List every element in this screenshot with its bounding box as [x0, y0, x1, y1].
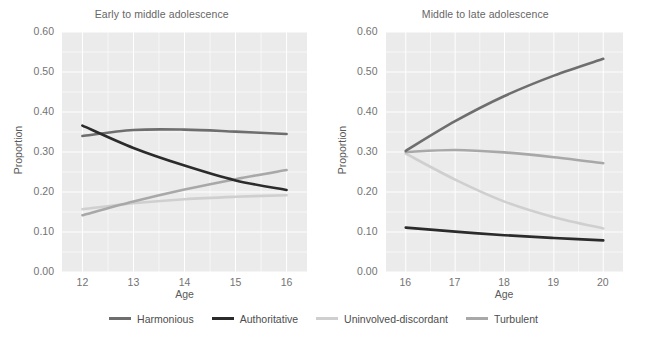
x-axis-label-left: Age: [62, 288, 307, 300]
panel-title-left: Early to middle adolescence: [0, 8, 324, 20]
legend-item-uninvolved-discordant[interactable]: Uninvolved-discordant: [316, 313, 448, 325]
legend-swatch-harmonious: [109, 317, 131, 320]
y-tick-label: 0.30: [0, 145, 54, 157]
legend-item-turbulent[interactable]: Turbulent: [466, 313, 538, 325]
y-tick-label: 0.50: [0, 65, 54, 77]
x-axis-label-right: Age: [386, 288, 623, 300]
x-tick-label: 14: [165, 276, 205, 288]
y-tick-label: 0.00: [0, 265, 54, 277]
y-tick-label: 0.00: [324, 265, 378, 277]
chart-legend: HarmoniousAuthoritativeUninvolved-discor…: [0, 300, 647, 337]
y-tick-label: 0.10: [324, 225, 378, 237]
y-tick-label: 0.20: [0, 185, 54, 197]
y-tick-label: 0.20: [324, 185, 378, 197]
x-tick-label: 13: [113, 276, 153, 288]
x-tick-label: 17: [435, 276, 475, 288]
panel-container: Early to middle adolescence Proportion A…: [0, 0, 647, 300]
y-tick-label: 0.30: [324, 145, 378, 157]
panel-early-to-middle-adolescence: Early to middle adolescence Proportion A…: [0, 0, 324, 300]
plot-svg-left: [62, 32, 307, 272]
legend-item-label: Authoritative: [240, 313, 298, 325]
y-tick-label: 0.60: [324, 25, 378, 37]
legend-item-label: Turbulent: [494, 313, 538, 325]
x-tick-label: 16: [267, 276, 307, 288]
legend-item-authoritative[interactable]: Authoritative: [212, 313, 298, 325]
legend-swatch-authoritative: [212, 317, 234, 320]
plot-svg-right: [386, 32, 623, 272]
legend-item-label: Harmonious: [137, 313, 194, 325]
panel-middle-to-late-adolescence: Middle to late adolescence Proportion Ag…: [324, 0, 647, 300]
legend-swatch-uninvolved-discordant: [316, 317, 338, 320]
x-tick-label: 19: [533, 276, 573, 288]
legend-item-harmonious[interactable]: Harmonious: [109, 313, 194, 325]
plot-area-right: [386, 32, 623, 272]
legend-swatch-turbulent: [466, 317, 488, 320]
plot-area-left: [62, 32, 307, 272]
y-tick-label: 0.40: [324, 105, 378, 117]
y-tick-label: 0.40: [0, 105, 54, 117]
x-tick-label: 20: [583, 276, 623, 288]
legend-item-label: Uninvolved-discordant: [344, 313, 448, 325]
y-tick-label: 0.10: [0, 225, 54, 237]
y-tick-label: 0.50: [324, 65, 378, 77]
y-tick-label: 0.60: [0, 25, 54, 37]
x-tick-label: 12: [62, 276, 102, 288]
x-tick-label: 15: [216, 276, 256, 288]
figure-root: Early to middle adolescence Proportion A…: [0, 0, 647, 337]
panel-title-right: Middle to late adolescence: [324, 8, 647, 20]
x-tick-label: 16: [385, 276, 425, 288]
x-tick-label: 18: [484, 276, 524, 288]
